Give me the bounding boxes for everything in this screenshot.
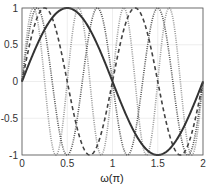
sine-waves-chart: 00.511.52 -1-0.500.51 ω(π)	[0, 0, 212, 191]
y-tick-label: -0.5	[1, 113, 19, 124]
x-tick-label: 1.5	[151, 158, 165, 169]
y-tick-label: -1	[9, 150, 18, 161]
y-tick-label: 0	[12, 76, 18, 87]
y-axis-ticks: -1-0.500.51	[1, 3, 19, 161]
x-axis-label: ω(π)	[100, 172, 124, 184]
y-tick-label: 0.5	[4, 39, 18, 50]
x-tick-label: 0	[19, 158, 25, 169]
y-tick-label: 1	[12, 3, 18, 14]
x-tick-label: 1	[110, 158, 116, 169]
x-tick-label: 0.5	[60, 158, 74, 169]
x-tick-label: 2	[200, 158, 206, 169]
x-axis-ticks: 00.511.52	[19, 158, 206, 169]
